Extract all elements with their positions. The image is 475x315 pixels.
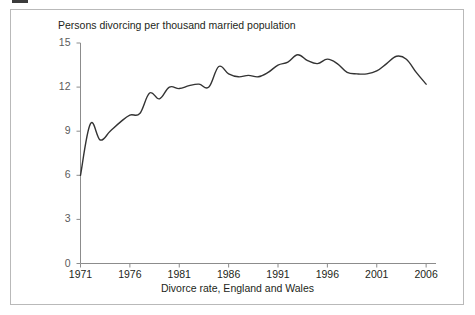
x-axis-title: Divorce rate, England and Wales <box>0 282 475 294</box>
series-line <box>81 55 427 176</box>
y-tick-label: 15 <box>49 37 71 48</box>
x-tick-label: 1976 <box>110 269 150 280</box>
x-tick-label: 2001 <box>357 269 397 280</box>
y-tick-label: 3 <box>49 213 71 224</box>
y-tick-label: 0 <box>49 258 71 269</box>
x-tick-label: 1986 <box>209 269 249 280</box>
x-tick-label: 1996 <box>307 269 347 280</box>
x-tick-label: 1981 <box>159 269 199 280</box>
y-tick-label: 9 <box>49 125 71 136</box>
x-tick-label: 1991 <box>258 269 298 280</box>
y-tick-label: 6 <box>49 169 71 180</box>
y-tick-label: 12 <box>49 81 71 92</box>
x-tick-label: 1971 <box>61 269 101 280</box>
x-tick-label: 2006 <box>406 269 446 280</box>
figure-root: Persons divorcing per thousand married p… <box>0 0 475 315</box>
